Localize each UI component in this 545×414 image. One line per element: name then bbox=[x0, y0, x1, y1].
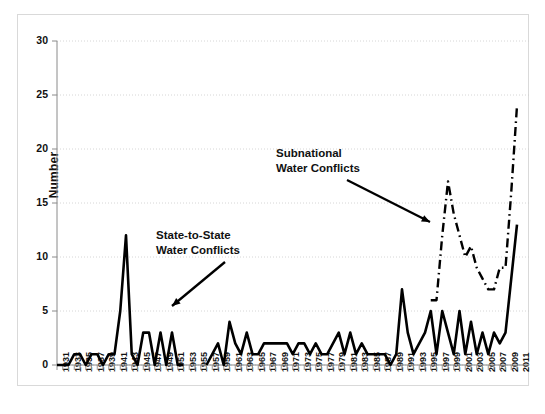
annotation-line-2: Water Conflicts bbox=[276, 161, 360, 176]
annotation-line-1: State-to-State bbox=[156, 228, 240, 243]
axis-tickmarks bbox=[52, 41, 517, 370]
chart-canvas bbox=[0, 0, 545, 414]
chart-figure: Number 051015202530 19311933193519371939… bbox=[0, 0, 545, 414]
data-series-layer bbox=[57, 106, 517, 365]
annotation-state-to-state: State-to-State Water Conflicts bbox=[156, 228, 240, 258]
annotation-line-1: Subnational bbox=[276, 146, 360, 161]
annotation-line-2: Water Conflicts bbox=[156, 243, 240, 258]
annotation-subnational: Subnational Water Conflicts bbox=[276, 146, 360, 176]
series-path-0 bbox=[207, 225, 518, 365]
